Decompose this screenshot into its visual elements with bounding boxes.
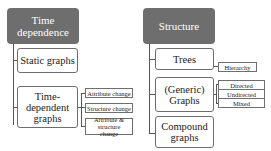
structure-change-leaf: Structure change <box>85 103 133 113</box>
attribute-change-leaf: Attribute change <box>85 88 133 98</box>
trees-node: Trees <box>155 48 214 70</box>
attribute-change-label: Attribute change <box>87 90 131 97</box>
connector-line <box>81 93 82 127</box>
static-graphs-label: Static graphs <box>20 55 75 66</box>
hierarchy-leaf: Hierarchy <box>218 62 257 72</box>
structure-header: Structure <box>143 8 215 44</box>
time-dependent-graphs-node: Time-dependent graphs <box>17 86 78 128</box>
time-dependent-graphs-label: Time-dependent graphs <box>24 91 71 124</box>
connector-line <box>13 44 14 125</box>
connector-line <box>149 44 150 134</box>
compound-graphs-label: Compound graphs <box>160 121 209 143</box>
generic-graphs-label: (Generic) Graphs <box>162 84 207 106</box>
undirected-label: Undirected <box>227 91 256 98</box>
connector-line <box>214 94 216 95</box>
directed-label: Directed <box>230 82 252 89</box>
attribute-structure-change-label: Attribute & structure change <box>90 116 128 137</box>
time-dependence-title: Time dependence <box>7 14 79 38</box>
trees-label: Trees <box>173 54 196 65</box>
structure-change-label: Structure change <box>87 105 131 112</box>
compound-graphs-node: Compound graphs <box>155 116 214 148</box>
attribute-structure-change-leaf: Attribute & structure change <box>85 118 133 135</box>
hierarchy-label: Hierarchy <box>225 64 251 71</box>
time-dependence-header: Time dependence <box>7 8 79 44</box>
generic-graphs-node: (Generic) Graphs <box>155 77 214 112</box>
mixed-label: Mixed <box>233 100 250 107</box>
structure-title: Structure <box>159 20 199 32</box>
mixed-leaf: Mixed <box>218 98 265 108</box>
connector-line <box>216 84 217 103</box>
static-graphs-node: Static graphs <box>17 48 78 73</box>
